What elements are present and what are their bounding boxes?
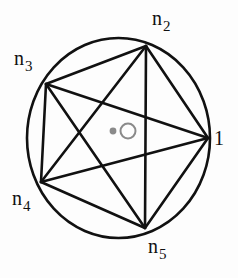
circumscribing-circle-layer xyxy=(27,38,210,238)
vertex-label-n5: n5 xyxy=(148,236,166,256)
center-filled-dot xyxy=(110,128,117,135)
vertex-label-subscript: 5 xyxy=(159,246,167,262)
vertex-label-subscript: 4 xyxy=(23,198,31,214)
edge-1-n3 xyxy=(46,84,208,138)
center-markers-layer xyxy=(110,124,136,139)
vertex-label-base: n xyxy=(14,47,24,69)
circumscribing-circle xyxy=(27,38,210,238)
vertex-label-1: 1 xyxy=(214,128,224,148)
figure-root: 1n2n3n4n5 xyxy=(0,0,238,278)
vertex-label-base: n xyxy=(148,235,158,257)
vertex-label-n2: n2 xyxy=(152,8,170,28)
vertex-label-n3: n3 xyxy=(14,48,32,68)
vertex-label-base: n xyxy=(152,7,162,29)
edge-n2-n5 xyxy=(145,46,146,228)
vertex-label-base: n xyxy=(12,187,22,209)
center-open-circle xyxy=(121,124,136,139)
graph-diagram-canvas xyxy=(0,0,238,278)
vertex-label-n4: n4 xyxy=(12,188,30,208)
vertex-label-subscript: 3 xyxy=(25,58,33,74)
edge-n3-n4 xyxy=(41,84,46,182)
vertex-label-base: 1 xyxy=(214,127,224,149)
vertex-label-subscript: 2 xyxy=(163,18,171,34)
